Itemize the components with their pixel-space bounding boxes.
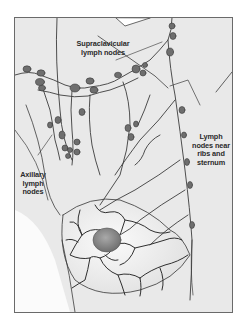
label-lymph-nodes-near-ribs-and-sternum: Lymph nodes near ribs and sternum <box>186 133 236 167</box>
label-axillary-lymph-nodes: Axillary lymph nodes <box>13 171 53 197</box>
breast-outline <box>62 199 190 293</box>
label-line: sternum <box>186 159 236 168</box>
tumor <box>93 228 121 252</box>
label-line: nodes <box>13 188 53 197</box>
label-supraclavicular-lymph-nodes: Supraclavicular lymph nodes <box>70 40 136 57</box>
label-line: lymph nodes <box>70 49 136 58</box>
